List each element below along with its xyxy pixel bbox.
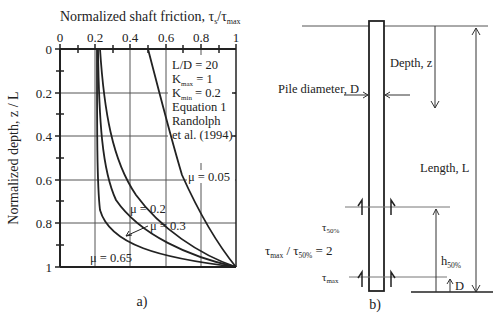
pile <box>369 21 384 291</box>
label-mu-0.05: μ = 0.05 <box>188 170 230 184</box>
x-axis-title: Normalized shaft friction, τs/τmax <box>60 9 241 26</box>
leader-mu-0.3 <box>126 226 148 236</box>
taumax-label: τmax <box>322 271 339 285</box>
curve-labels: μ = 0.05 μ = 0.2 μ = 0.3 μ = 0.65 <box>90 170 235 265</box>
length-label: Length, L <box>420 161 469 175</box>
y-axis-title: Normalized depth, z / L <box>6 91 21 224</box>
annotation-equation: Equation 1 <box>172 100 227 114</box>
x-tick-label: 0 <box>57 30 64 45</box>
y-tick-label: 1 <box>46 260 53 275</box>
label-mu-0.3: μ = 0.3 <box>150 219 186 233</box>
label-mu-0.2: μ = 0.2 <box>130 202 166 216</box>
tau50-label: τ50% <box>322 221 339 235</box>
x-tick-label: 0.4 <box>122 30 139 45</box>
h50-label: h50% <box>441 254 461 270</box>
panel-b: Pile diameter, D Depth, z Length, L <box>265 21 493 313</box>
depth-label: Depth, z <box>390 56 433 70</box>
d-label: D <box>455 279 464 293</box>
y-tick-label: 0 <box>46 42 53 57</box>
x-tick-label: 0.8 <box>193 30 209 45</box>
y-tick-label: 0.6 <box>36 173 53 188</box>
label-mu-0.65: μ = 0.65 <box>90 251 132 265</box>
x-tick-label: 0.2 <box>87 30 103 45</box>
y-tick-label: 0.8 <box>36 216 52 231</box>
d-arrow <box>447 279 453 292</box>
figure: Normalized shaft friction, τs/τmax 0 0.2… <box>0 0 502 327</box>
x-tick-labels: 0 0.2 0.4 0.6 0.8 1 <box>57 30 240 45</box>
annotation-ld: L/D = 20 <box>172 58 218 72</box>
h50-arrow <box>433 209 439 292</box>
y-tick-label: 0.2 <box>36 86 52 101</box>
caption-a: a) <box>137 294 148 310</box>
pile-diameter-label: Pile diameter, D <box>278 82 359 96</box>
x-tick-label: 1 <box>233 30 240 45</box>
y-tick-label: 0.4 <box>36 129 53 144</box>
panel-a: Normalized shaft friction, τs/τmax 0 0.2… <box>6 9 241 310</box>
y-tick-labels: 0 0.2 0.4 0.6 0.8 1 <box>36 42 53 275</box>
x-tick-label: 0.6 <box>158 30 175 45</box>
caption-b: b) <box>369 297 381 313</box>
annotation-ref-author: Randolph <box>172 114 221 128</box>
ratio-label: τmax / τ50% = 2 <box>265 243 333 260</box>
annotation-ref-year: et al. (1994) <box>172 128 233 142</box>
